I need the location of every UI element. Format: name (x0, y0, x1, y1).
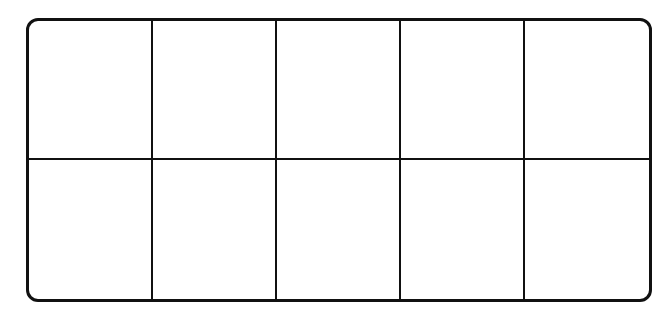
grid-cell-r2-c1 (29, 160, 153, 299)
grid-cell-r1-c1 (29, 21, 153, 160)
grid-cell-r2-c3 (277, 160, 401, 299)
grid-cell-r1-c3 (277, 21, 401, 160)
grid-cell-r1-c4 (401, 21, 525, 160)
grid-cell-r2-c2 (153, 160, 277, 299)
ten-frame-grid (26, 18, 652, 302)
grid-cell-r2-c4 (401, 160, 525, 299)
grid-cell-r1-c2 (153, 21, 277, 160)
grid-cell-r2-c5 (525, 160, 649, 299)
grid-cell-r1-c5 (525, 21, 649, 160)
